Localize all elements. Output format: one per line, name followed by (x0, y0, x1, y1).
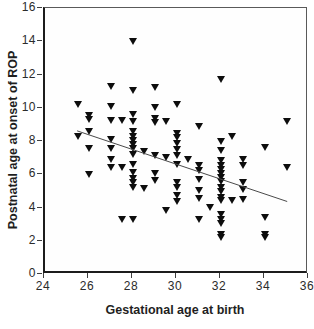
data-point-marker (173, 198, 181, 205)
data-point-marker (173, 152, 181, 159)
data-point-marker (107, 83, 115, 90)
x-axis-tick (43, 273, 44, 278)
y-axis-tick-label: 4 (10, 200, 36, 214)
data-point-marker (129, 151, 137, 158)
data-point-marker (118, 216, 126, 223)
data-point-marker (74, 101, 82, 108)
x-axis-tick (87, 273, 88, 278)
data-point-marker (107, 164, 115, 171)
x-axis-tick (175, 273, 176, 278)
data-point-marker (195, 187, 203, 194)
data-point-marker (107, 103, 115, 110)
y-axis-tick (37, 107, 42, 108)
y-axis-tick-label: 8 (10, 133, 36, 147)
data-point-marker (261, 214, 269, 221)
data-point-marker (151, 177, 159, 184)
data-point-marker (107, 145, 115, 152)
data-point-marker (85, 145, 93, 152)
data-point-marker (195, 195, 203, 202)
x-axis-tick-label: 34 (248, 279, 278, 293)
data-point-marker (184, 156, 192, 163)
x-axis-tick-label: 36 (292, 279, 314, 293)
x-axis-tick-label: 30 (160, 279, 190, 293)
data-point-marker (217, 138, 225, 145)
y-axis-tick-label: 2 (10, 233, 36, 247)
data-point-marker (228, 133, 236, 140)
x-axis-tick-label: 24 (28, 279, 58, 293)
data-point-marker (173, 161, 181, 168)
data-point-marker (239, 196, 247, 203)
data-point-marker (151, 84, 159, 91)
data-point-marker (151, 104, 159, 111)
data-point-marker (261, 234, 269, 241)
data-point-marker (140, 185, 148, 192)
data-point-marker (162, 154, 170, 161)
data-point-marker (195, 167, 203, 174)
x-axis-tick (131, 273, 132, 278)
data-point-marker (107, 136, 115, 143)
data-point-marker (206, 204, 214, 211)
data-point-marker (261, 144, 269, 151)
x-axis-title: Gestational age at birth (43, 303, 307, 317)
y-axis-tick-label: 10 (10, 100, 36, 114)
data-point-marker (129, 87, 137, 94)
data-point-marker (107, 156, 115, 163)
data-point-marker (228, 197, 236, 204)
y-axis-tick (37, 140, 42, 141)
data-point-marker (217, 197, 225, 204)
data-point-marker (217, 220, 225, 227)
y-axis-tick-label: 14 (10, 33, 36, 47)
data-point-marker (85, 128, 93, 135)
data-point-marker (217, 147, 225, 154)
y-axis-tick-label: 6 (10, 166, 36, 180)
data-point-marker (217, 76, 225, 83)
data-point-marker (162, 207, 170, 214)
x-axis-tick (263, 273, 264, 278)
data-point-marker (283, 164, 291, 171)
x-axis-tick-label: 32 (204, 279, 234, 293)
data-point-marker (118, 164, 126, 171)
x-axis-tick-label: 28 (116, 279, 146, 293)
data-point-marker (129, 216, 137, 223)
data-point-marker (151, 152, 159, 159)
y-axis-tick-label: 16 (10, 0, 36, 14)
data-point-marker (195, 123, 203, 130)
data-point-marker (173, 101, 181, 108)
y-axis-tick (37, 273, 42, 274)
y-axis-tick (37, 7, 42, 8)
y-axis-tick-label: 12 (10, 67, 36, 81)
data-point-marker (140, 148, 148, 155)
data-point-marker (118, 117, 126, 124)
data-point-marker (85, 116, 93, 123)
data-point-marker (129, 38, 137, 45)
y-axis-tick (37, 207, 42, 208)
data-point-marker (151, 119, 159, 126)
data-point-marker (283, 118, 291, 125)
data-point-marker (129, 161, 137, 168)
data-point-marker (107, 117, 115, 124)
y-axis-tick (37, 173, 42, 174)
data-point-marker (129, 118, 137, 125)
x-axis-tick (219, 273, 220, 278)
data-point-marker (239, 186, 247, 193)
data-point-marker (239, 162, 247, 169)
data-point-marker (173, 184, 181, 191)
data-point-marker (195, 216, 203, 223)
data-point-marker (195, 176, 203, 183)
scatter-plot-figure: Postnatal age at onset of ROP 2426283032… (0, 0, 314, 329)
y-axis-tick (37, 40, 42, 41)
data-point-marker (162, 118, 170, 125)
plot-area (43, 7, 307, 273)
y-axis-tick-label: 0 (10, 266, 36, 280)
data-point-marker (217, 234, 225, 241)
y-axis-tick (37, 240, 42, 241)
data-point-marker (85, 171, 93, 178)
data-point-marker (129, 184, 137, 191)
data-point-marker (74, 133, 82, 140)
x-axis-tick-label: 26 (72, 279, 102, 293)
y-axis-tick (37, 74, 42, 75)
x-axis-tick (307, 273, 308, 278)
